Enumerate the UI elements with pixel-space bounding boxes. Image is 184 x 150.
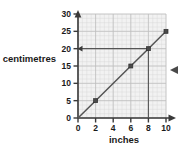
left-arrow-marker-icon xyxy=(170,66,178,74)
x-tick-label: 8 xyxy=(146,123,151,133)
x-tick-label: 4 xyxy=(111,123,116,133)
y-axis-tick-labels: 051015202530 xyxy=(62,9,72,123)
y-tick-label: 20 xyxy=(62,44,72,54)
y-tick-label: 10 xyxy=(62,78,72,88)
y-tick-label: 0 xyxy=(66,113,71,123)
data-point-marker xyxy=(129,64,133,68)
y-tick-label: 5 xyxy=(66,96,71,106)
x-tick-label: 0 xyxy=(76,123,81,133)
data-point-marker xyxy=(146,47,150,51)
y-tick-label: 25 xyxy=(62,26,72,36)
x-tick-label: 10 xyxy=(161,123,171,133)
y-tick-label: 15 xyxy=(62,61,72,71)
x-tick-label: 6 xyxy=(128,123,133,133)
x-axis-tick-labels: 0246810 xyxy=(76,123,171,133)
x-axis-arrowhead xyxy=(169,115,177,122)
x-axis-title: inches xyxy=(109,134,139,145)
data-point-marker xyxy=(94,99,98,103)
x-tick-label: 2 xyxy=(93,123,98,133)
data-point-marker xyxy=(164,29,168,33)
y-tick-label: 30 xyxy=(62,9,72,19)
y-axis-title: centimetres xyxy=(3,53,56,64)
conversion-line-chart: 051015202530 0246810 centimetres inches xyxy=(0,0,184,150)
